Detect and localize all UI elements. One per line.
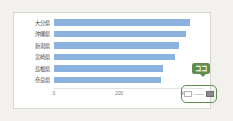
bar-track: [54, 52, 206, 64]
page-background: 大分県 沖縄県 新潟県: [0, 0, 233, 121]
control-chip-right[interactable]: [206, 91, 214, 97]
annotation-callout-tail: [200, 74, 206, 77]
control-chip-left[interactable]: [184, 91, 192, 97]
category-label: 宮崎県: [20, 54, 54, 60]
bar-value: [54, 54, 175, 60]
category-label: 大分県: [20, 20, 54, 26]
bar-track: [54, 40, 206, 52]
control-divider: [194, 94, 204, 95]
x-axis-tick: 0: [53, 91, 56, 96]
highlighted-control-group[interactable]: [184, 90, 214, 98]
bar-row: 島根県: [20, 63, 206, 75]
bar-track: [54, 17, 206, 29]
bar-track: [54, 29, 206, 41]
bar-row: 沖縄県: [20, 29, 206, 41]
bar-track: [54, 63, 206, 75]
bar-value: [54, 77, 161, 83]
bar-row: 奈良県: [20, 75, 206, 87]
annotation-callout-label: ココ: [195, 65, 207, 73]
category-label: 奈良県: [20, 77, 54, 83]
annotation-callout: ココ: [192, 63, 210, 74]
bar-track: [54, 75, 206, 87]
bar-rows: 大分県 沖縄県 新潟県: [20, 17, 206, 86]
category-label: 沖縄県: [20, 31, 54, 37]
bar-value: [54, 19, 190, 25]
bar-row: 大分県: [20, 17, 206, 29]
x-axis-tick: 200: [115, 91, 123, 96]
bar-value: [54, 42, 179, 48]
bar-row: 宮崎県: [20, 52, 206, 64]
bar-row: 新潟県: [20, 40, 206, 52]
bar-value: [54, 31, 186, 37]
category-label: 新潟県: [20, 43, 54, 49]
category-label: 島根県: [20, 66, 54, 72]
bar-value: [54, 65, 163, 71]
